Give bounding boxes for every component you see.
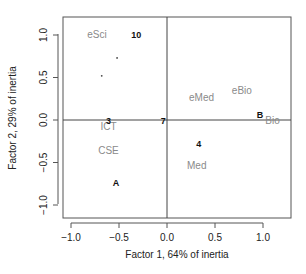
data-points: eSciICTCSEeMedeBioBioMed1037AB4 [87,29,280,188]
point-label: B [257,110,264,120]
point-label: Bio [265,115,280,126]
x-tick-label: 0.0 [160,232,174,243]
point-label: Med [187,160,206,171]
point-label: eMed [189,92,214,103]
point-label: 3 [106,116,111,126]
y-tick-label: −1.0 [38,195,49,215]
x-axis: −1.0−0.50.00.51.0 [61,223,270,243]
y-tick-label: 0.0 [38,113,49,127]
point-marker [101,75,103,77]
point-marker [116,57,118,59]
x-tick-label: 1.0 [256,232,270,243]
x-tick-label: −1.0 [61,232,81,243]
y-axis: −1.0−0.50.00.51.0 [38,28,58,215]
point-label: eBio [232,85,252,96]
point-label: eSci [87,29,106,40]
y-tick-label: 1.0 [38,28,49,42]
point-label: A [113,178,120,188]
point-label: 10 [131,30,141,40]
y-axis-title: Factor 2, 29% of inertia [7,66,18,170]
y-tick-label: 0.5 [38,70,49,84]
x-tick-label: −0.5 [109,232,129,243]
point-label: 4 [196,139,201,149]
point-label: 7 [161,116,166,126]
point-label: CSE [98,145,119,156]
x-tick-label: 0.5 [208,232,222,243]
correspondence-analysis-plot: −1.0−0.50.00.51.0 −1.0−0.50.00.51.0 Fact… [0,0,306,274]
y-tick-label: −0.5 [38,152,49,172]
x-axis-title: Factor 1, 64% of inertia [125,249,229,260]
